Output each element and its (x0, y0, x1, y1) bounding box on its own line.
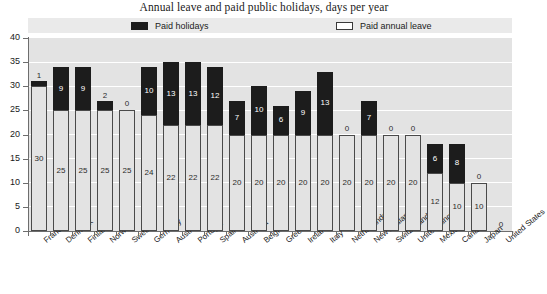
x-axis-tick-mark (182, 232, 183, 236)
bar-value-label-annual-leave: 22 (163, 173, 179, 182)
bar-value-label-paid-holidays: 1 (31, 71, 47, 80)
y-axis-line (28, 37, 29, 232)
x-axis-tick-mark (336, 232, 337, 236)
y-axis-tick-mark (23, 110, 28, 111)
bar-value-label-paid-holidays: 2 (97, 91, 113, 100)
y-axis-tick-label: 20 (10, 129, 20, 139)
bar-value-label-annual-leave: 25 (75, 166, 91, 175)
bar-group[interactable]: 209 (295, 38, 311, 231)
x-axis-tick-mark (292, 232, 293, 236)
bar-group[interactable]: 108 (449, 38, 465, 231)
bar-value-label-annual-leave: 20 (317, 178, 333, 187)
y-axis-tick-mark (23, 159, 28, 160)
bar-value-label-paid-holidays: 7 (229, 113, 245, 122)
bar-group[interactable]: 259 (53, 38, 69, 231)
bar-group[interactable]: 0 (493, 38, 509, 231)
bar-group[interactable]: 2213 (163, 38, 179, 231)
bar-group[interactable]: 100 (471, 38, 487, 231)
bar-value-label-paid-holidays: 8 (449, 158, 465, 167)
bar-segment-paid-holidays[interactable] (97, 101, 113, 111)
y-axis-tick-label: 25 (10, 104, 20, 114)
bar-group[interactable]: 207 (229, 38, 245, 231)
bar-value-label-annual-leave: 10 (471, 202, 487, 211)
bar-value-label-paid-holidays: 0 (383, 124, 399, 133)
bar-value-label-annual-leave: 12 (427, 197, 443, 206)
y-axis-tick-label: 40 (10, 32, 20, 42)
x-axis-tick-mark (468, 232, 469, 236)
y-axis-tick-mark (23, 38, 28, 39)
bar-value-label-paid-holidays: 13 (163, 89, 179, 98)
bar-group[interactable]: 2213 (185, 38, 201, 231)
bar-group[interactable]: 126 (427, 38, 443, 231)
bar-group[interactable]: 259 (75, 38, 91, 231)
x-axis-tick-mark (204, 232, 205, 236)
x-axis-tick-mark (380, 232, 381, 236)
bar-value-label-paid-holidays: 9 (53, 84, 69, 93)
bar-value-label-annual-leave: 10 (449, 202, 465, 211)
legend-item-paid-annual-leave: Paid annual leave (336, 19, 432, 32)
bar-value-label-annual-leave: 24 (141, 168, 157, 177)
bar-group[interactable]: 2010 (251, 38, 267, 231)
bar-value-label-paid-holidays: 7 (361, 113, 377, 122)
bar-group[interactable]: 200 (405, 38, 421, 231)
y-axis-tick-label: 15 (10, 153, 20, 163)
x-axis-tick-mark (138, 232, 139, 236)
x-axis-tick-mark (50, 232, 51, 236)
bar-value-label-annual-leave: 20 (273, 178, 289, 187)
bar-value-label-paid-holidays: 0 (493, 220, 509, 229)
bar-value-label-paid-holidays: 13 (185, 89, 201, 98)
x-axis-tick-mark (358, 232, 359, 236)
bar-value-label-paid-holidays: 12 (207, 91, 223, 100)
x-axis-tick-mark (94, 232, 95, 236)
bar-value-label-annual-leave: 20 (405, 178, 421, 187)
bar-group[interactable]: 2013 (317, 38, 333, 231)
bar-group[interactable]: 301 (31, 38, 47, 231)
bar-value-label-annual-leave: 30 (31, 154, 47, 163)
bar-group[interactable]: 206 (273, 38, 289, 231)
x-axis-tick-mark (116, 232, 117, 236)
chart-legend: Paid holidays Paid annual leave (28, 18, 512, 33)
x-axis-tick-mark (160, 232, 161, 236)
bar-group[interactable]: 250 (119, 38, 135, 231)
bar-value-label-annual-leave: 20 (295, 178, 311, 187)
bar-value-label-paid-holidays: 13 (317, 98, 333, 107)
x-axis-tick-mark (314, 232, 315, 236)
bar-group[interactable]: 200 (383, 38, 399, 231)
bar-value-label-paid-holidays: 10 (141, 86, 157, 95)
bar-value-label-annual-leave: 20 (251, 178, 267, 187)
bar-group[interactable]: 200 (339, 38, 355, 231)
x-axis-tick-mark (248, 232, 249, 236)
bar-group[interactable]: 252 (97, 38, 113, 231)
y-axis-tick-label: 10 (10, 177, 20, 187)
legend-swatch-paid-holidays (131, 22, 148, 30)
chart-title: Annual leave and paid public holidays, d… (0, 1, 528, 13)
bar-value-label-paid-holidays: 0 (339, 124, 355, 133)
y-axis-tick-mark (23, 62, 28, 63)
bar-value-label-paid-holidays: 9 (295, 108, 311, 117)
y-axis-tick-label: 35 (10, 56, 20, 66)
x-axis-tick-mark (512, 232, 513, 236)
x-axis-tick-mark (28, 232, 29, 236)
y-axis-tick-label: 0 (15, 225, 20, 235)
bar-value-label-annual-leave: 22 (185, 173, 201, 182)
y-axis-tick-mark (23, 135, 28, 136)
bar-group[interactable]: 207 (361, 38, 377, 231)
legend-item-paid-holidays: Paid holidays (131, 19, 209, 32)
y-axis-tick-mark (23, 207, 28, 208)
x-axis-tick-mark (270, 232, 271, 236)
bar-value-label-paid-holidays: 10 (251, 105, 267, 114)
bar-group[interactable]: 2410 (141, 38, 157, 231)
bar-value-label-annual-leave: 25 (53, 166, 69, 175)
bar-segment-paid-holidays[interactable] (31, 81, 47, 86)
bar-value-label-paid-holidays: 6 (427, 154, 443, 163)
bar-value-label-annual-leave: 20 (229, 178, 245, 187)
bar-value-label-paid-holidays: 0 (405, 124, 421, 133)
y-axis-tick-label: 5 (15, 201, 20, 211)
bar-value-label-annual-leave: 22 (207, 173, 223, 182)
bar-value-label-annual-leave: 20 (383, 178, 399, 187)
y-axis-tick-mark (23, 86, 28, 87)
x-axis-tick-mark (490, 232, 491, 236)
bar-group[interactable]: 2212 (207, 38, 223, 231)
bar-value-label-annual-leave: 25 (97, 166, 113, 175)
